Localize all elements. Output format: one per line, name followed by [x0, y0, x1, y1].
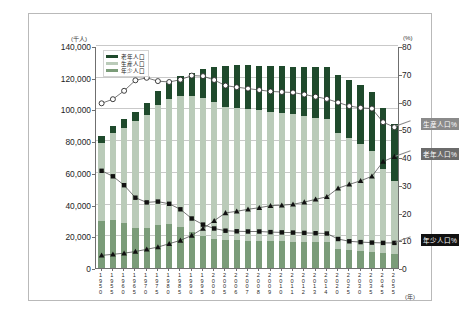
x-axis-tick-mark	[292, 269, 293, 271]
x-axis-tick-mark	[146, 269, 147, 271]
x-axis-tick-label: 2055	[388, 273, 399, 295]
x-axis-tick-label: 2007	[241, 273, 252, 295]
callout-young-pct: 年少人口%	[421, 234, 459, 246]
legend-item: 年少人口	[106, 67, 145, 74]
marker-young-pct	[358, 240, 362, 244]
x-axis-tick-label: 1955	[106, 273, 117, 295]
x-axis-tick-mark	[157, 269, 158, 271]
marker-working-pct	[167, 80, 172, 85]
x-axis-tick-mark	[382, 269, 383, 271]
x-axis-tick-label: 1985	[174, 273, 185, 295]
plot-area	[95, 47, 399, 269]
x-axis-tick-label: 1970	[140, 273, 151, 295]
x-axis-tick-mark	[337, 269, 338, 271]
marker-young-pct	[257, 229, 261, 233]
x-axis-tick-label: 2030	[354, 273, 365, 295]
x-axis-tick-mark	[270, 269, 271, 271]
marker-working-pct	[223, 83, 228, 88]
x-axis-tick-mark	[123, 269, 124, 271]
marker-working-pct	[279, 90, 284, 95]
x-axis-tick-mark	[258, 269, 259, 271]
x-axis-tick-label: 2005	[219, 273, 230, 295]
marker-young-pct	[246, 229, 250, 233]
marker-working-pct	[155, 79, 160, 84]
right-axis-tick-label: 20	[402, 209, 432, 219]
x-axis-tick-mark	[303, 269, 304, 271]
marker-working-pct	[99, 101, 104, 106]
x-axis-tick-label: 2025	[343, 273, 354, 295]
marker-young-pct	[156, 199, 160, 203]
marker-young-pct	[302, 231, 306, 235]
x-axis-tick-mark	[393, 269, 394, 271]
left-axis-tick-label: 60,000	[35, 169, 91, 179]
x-axis-tick-label: 2006	[230, 273, 241, 295]
left-axis-tick-mark	[92, 269, 95, 270]
marker-working-pct	[234, 85, 239, 90]
marker-elderly-pct	[324, 194, 330, 199]
x-axis-tick-label: 2035	[365, 273, 376, 295]
x-axis-tick-mark	[224, 269, 225, 271]
x-axis-tick-label: 2011	[286, 273, 297, 295]
marker-working-pct	[212, 78, 217, 83]
x-axis-tick-mark	[179, 269, 180, 271]
marker-elderly-pct	[335, 185, 341, 190]
marker-young-pct	[223, 229, 227, 233]
x-axis-tick-mark	[191, 269, 192, 271]
x-axis-tick-label: 2000	[208, 273, 219, 295]
marker-working-pct	[110, 97, 115, 102]
right-axis-tick-label: 80	[402, 42, 432, 52]
x-axis-tick-mark	[168, 269, 169, 271]
right-axis-tick-label: 0	[402, 264, 432, 274]
marker-elderly-pct	[211, 218, 217, 223]
marker-working-pct	[347, 104, 352, 109]
marker-young-pct	[111, 174, 115, 178]
x-axis-tick-mark	[236, 269, 237, 271]
left-axis-tick-label: 0	[35, 264, 91, 274]
callout-elderly-pct: 老年人口%	[421, 148, 459, 160]
x-axis-tick-mark	[360, 269, 361, 271]
marker-young-pct	[235, 229, 239, 233]
marker-working-pct	[257, 88, 262, 93]
marker-working-pct	[336, 100, 341, 105]
marker-working-pct	[122, 88, 127, 93]
marker-elderly-pct	[380, 159, 386, 164]
x-axis-tick-label: 1995	[196, 273, 207, 295]
line-series-group	[96, 47, 400, 269]
x-axis-tick-mark	[112, 269, 113, 271]
marker-young-pct	[268, 230, 272, 234]
gridline	[96, 45, 398, 46]
x-axis-tick-mark	[247, 269, 248, 271]
marker-young-pct	[99, 169, 103, 173]
right-axis-tick-mark	[399, 269, 402, 270]
x-axis-tick-mark	[348, 269, 349, 271]
x-axis-unit: (年)	[405, 292, 415, 301]
marker-young-pct	[347, 239, 351, 243]
chart-frame: (千人) (%) (年) 140,000120,000100,00080,000…	[28, 13, 432, 301]
marker-young-pct	[325, 231, 329, 235]
x-axis-tick-label: 1950	[95, 273, 106, 295]
marker-working-pct	[358, 105, 363, 110]
x-axis-tick-mark	[326, 269, 327, 271]
marker-working-pct	[133, 78, 138, 83]
x-axis-tick-mark	[281, 269, 282, 271]
x-axis-tick-label: 1975	[151, 273, 162, 295]
x-axis-tick-mark	[371, 269, 372, 271]
marker-working-pct	[302, 92, 307, 97]
left-axis-tick-label: 120,000	[35, 74, 91, 84]
left-axis-tick-label: 100,000	[35, 105, 91, 115]
right-axis-tick-label: 30	[402, 181, 432, 191]
marker-working-pct	[369, 106, 374, 111]
x-axis-tick-mark	[101, 269, 102, 271]
marker-young-pct	[190, 216, 194, 220]
marker-elderly-pct	[189, 233, 195, 238]
x-axis-tick-label: 1980	[163, 273, 174, 295]
marker-working-pct	[313, 94, 318, 99]
callout-working-pct: 生産人口%	[421, 118, 459, 130]
marker-elderly-pct	[178, 238, 184, 243]
x-axis-tick-label: 1960	[118, 273, 129, 295]
legend-swatch	[106, 55, 118, 58]
x-axis-tick-mark	[213, 269, 214, 271]
chart-legend: 老年人口生産人口年少人口	[103, 50, 149, 77]
marker-working-pct	[189, 73, 194, 78]
x-axis-tick-label: 1965	[129, 273, 140, 295]
